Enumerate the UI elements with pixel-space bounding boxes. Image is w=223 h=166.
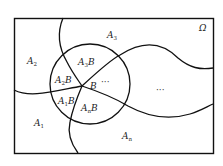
universe-label: Ω [198, 23, 207, 33]
boundary-dots-an [82, 86, 213, 117]
region-a1b-label: A1B [57, 96, 75, 107]
region-a1-label: A1 [33, 118, 44, 129]
region-a3-label: A3 [106, 30, 118, 41]
region-a2b-label: A2B [54, 75, 72, 86]
boundary-a1-a2 [14, 86, 82, 94]
region-a3b-label: A3B [77, 57, 95, 68]
inner-ellipsis: ··· [101, 77, 110, 87]
region-an-label: An [121, 131, 133, 142]
center-b-label: B [89, 81, 97, 91]
partition-diagram: Ω A3 A2 A1 An A3B A2B A1B AnB B ··· ··· [0, 0, 223, 166]
region-a2-label: A2 [26, 56, 37, 67]
outer-ellipsis: ··· [156, 85, 165, 95]
region-anb-label: AnB [80, 103, 98, 114]
